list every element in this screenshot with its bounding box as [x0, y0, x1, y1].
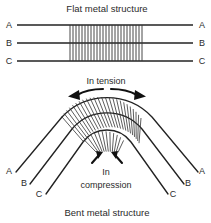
flat-right-label-b: B — [199, 38, 205, 48]
flat-left-label-c: C — [6, 56, 13, 66]
in-compression-label-line2: compression — [80, 180, 131, 190]
bent-structure-caption: Bent metal structure — [64, 207, 149, 218]
compression-arrow-right — [111, 151, 122, 163]
flat-right-label-a: A — [199, 20, 205, 30]
bent-left-label-c: C — [36, 189, 43, 199]
flat-right-label-c: C — [199, 56, 206, 66]
bent-right-label-b: B — [185, 178, 191, 188]
flat-structure-group: A B C A B C — [6, 20, 206, 66]
bent-structure-group: A B C A B C In compression — [6, 89, 205, 199]
in-compression-label-line1: In — [102, 167, 110, 177]
bent-line-a — [16, 98, 198, 172]
bent-left-label-b: B — [21, 178, 27, 188]
compression-arrow-left — [92, 151, 103, 163]
flat-left-label-a: A — [6, 20, 12, 30]
bent-fan-region — [62, 97, 141, 143]
bent-left-label-a: A — [6, 166, 12, 176]
diagram-canvas: Flat metal structure — [0, 0, 211, 223]
bent-right-label-c: C — [170, 189, 177, 199]
metal-bending-diagram: Flat metal structure — [0, 0, 211, 223]
flat-left-label-b: B — [6, 38, 12, 48]
flat-structure-caption: Flat metal structure — [66, 3, 147, 14]
bent-right-label-a: A — [199, 166, 205, 176]
in-tension-label: In tension — [86, 76, 125, 86]
